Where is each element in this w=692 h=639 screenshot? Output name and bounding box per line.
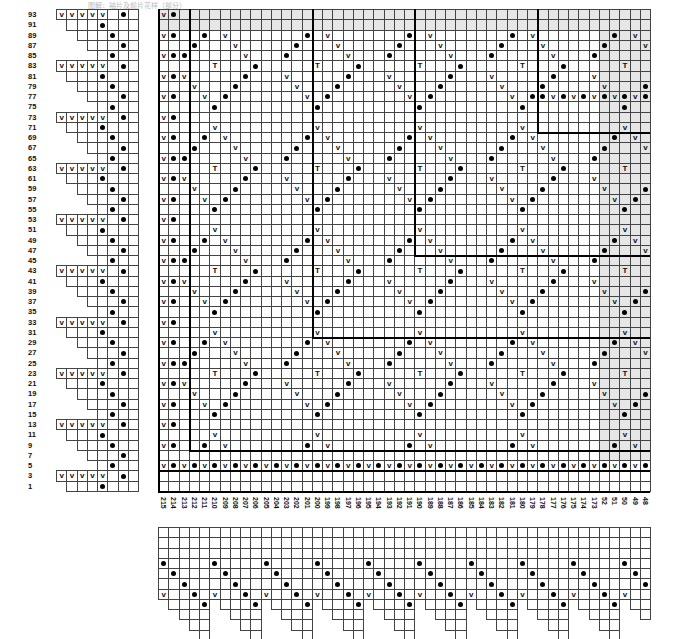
dot-symbol-icon [489,258,494,263]
dot-symbol-icon [192,248,197,253]
dot-symbol-icon [182,582,187,587]
dot-symbol-icon [633,571,638,576]
dot-symbol-icon [520,463,525,468]
dot-symbol-icon [438,289,443,294]
dot-symbol-icon [100,125,105,130]
dot-symbol-icon [315,105,320,110]
dot-symbol-icon [561,64,566,69]
dot-symbol-icon [284,582,289,587]
dot-symbol-icon [223,571,228,576]
dot-symbol-icon [171,422,176,427]
bottom-chart-cell [404,630,415,639]
dot-symbol-icon [171,53,176,58]
section-divider-line [414,9,416,255]
dot-symbol-icon [561,602,566,607]
dot-symbol-icon [274,571,279,576]
column-label: 173 [591,497,598,509]
dot-symbol-icon [499,351,504,356]
dot-symbol-icon [643,187,648,192]
dot-symbol-icon [253,166,258,171]
dot-symbol-icon [397,463,402,468]
dot-symbol-icon [356,166,361,171]
dot-symbol-icon [407,135,412,140]
column-label: 51 [611,497,618,505]
column-label: 194 [375,497,382,509]
row-label: 53 [28,215,52,224]
dot-symbol-icon [110,33,115,38]
dot-symbol-icon [202,33,207,38]
row-label: 35 [28,307,52,316]
dot-symbol-icon [499,592,504,597]
row-label: 17 [28,400,52,409]
dot-symbol-icon [110,187,115,192]
dot-symbol-icon [458,269,463,274]
dot-symbol-icon [458,463,463,468]
column-label: 200 [314,497,321,509]
dot-symbol-icon [622,310,627,315]
dot-symbol-icon [305,135,310,140]
dot-symbol-icon [121,402,126,407]
dot-symbol-icon [121,248,126,253]
dot-symbol-icon [243,74,248,79]
dot-symbol-icon [233,463,238,468]
row-label: 25 [28,359,52,368]
row-label: 83 [28,61,52,70]
dot-symbol-icon [356,602,361,607]
dot-symbol-icon [202,238,207,243]
dot-symbol-icon [633,299,638,304]
row-label: 73 [28,113,52,122]
dot-symbol-icon [284,258,289,263]
dot-symbol-icon [581,571,586,576]
dot-symbol-icon [592,361,597,366]
dot-symbol-icon [121,115,126,120]
dot-symbol-icon [551,381,556,386]
dot-symbol-icon [305,602,310,607]
dot-symbol-icon [510,340,515,345]
dot-symbol-icon [622,412,627,417]
dot-symbol-icon [571,561,576,566]
row-label: 11 [28,430,52,439]
dot-symbol-icon [448,74,453,79]
row-label: 29 [28,338,52,347]
dot-symbol-icon [305,443,310,448]
column-label: 196 [355,497,362,509]
column-label: 192 [396,497,403,509]
row-label: 69 [28,133,52,142]
dot-symbol-icon [407,340,412,345]
row-label: 3 [28,471,52,480]
row-label: 49 [28,236,52,245]
dot-symbol-icon [171,135,176,140]
dot-symbol-icon [397,592,402,597]
dot-symbol-icon [182,156,187,161]
dot-symbol-icon [612,443,617,448]
row-label: 47 [28,246,52,255]
dot-symbol-icon [161,561,166,566]
dot-symbol-icon [428,94,433,99]
column-label: 175 [570,497,577,509]
dot-symbol-icon [253,602,258,607]
dot-symbol-icon [530,299,535,304]
dot-symbol-icon [171,463,176,468]
dot-symbol-icon [335,463,340,468]
dot-symbol-icon [479,571,484,576]
dot-symbol-icon [551,592,556,597]
dot-symbol-icon [325,197,330,202]
dot-symbol-icon [171,115,176,120]
section-divider-line [158,491,650,493]
dot-symbol-icon [438,463,443,468]
row-label: 19 [28,389,52,398]
dot-symbol-icon [110,463,115,468]
column-label: 48 [642,497,649,505]
dot-symbol-icon [458,64,463,69]
section-divider-line [189,9,191,450]
column-label: 207 [242,497,249,509]
dot-symbol-icon [171,299,176,304]
dot-symbol-icon [643,289,648,294]
dot-symbol-icon [346,74,351,79]
dot-symbol-icon [171,320,176,325]
dot-symbol-icon [325,571,330,576]
row-label: 39 [28,287,52,296]
left-chart-cell [128,481,139,492]
dot-symbol-icon [253,269,258,274]
column-label: 199 [324,497,331,509]
